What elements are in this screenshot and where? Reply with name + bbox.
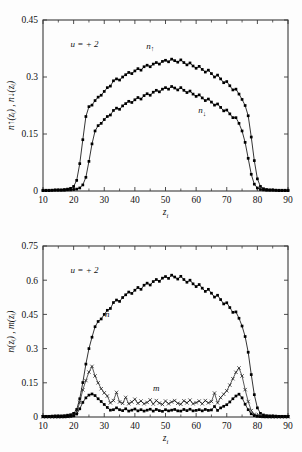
series-marker-m-lower bbox=[140, 408, 143, 411]
series-marker-n↑ bbox=[250, 136, 253, 139]
series-marker-n↓ bbox=[176, 89, 179, 92]
series-marker-m-lower bbox=[268, 415, 271, 418]
series-marker-m-lower bbox=[158, 409, 161, 412]
series-marker-n↓ bbox=[235, 116, 238, 119]
series-marker-m bbox=[121, 402, 124, 405]
series-marker-m bbox=[197, 399, 200, 402]
series-marker-m-lower bbox=[91, 393, 94, 396]
series-marker-n↑ bbox=[85, 115, 88, 118]
series-marker-n↑ bbox=[186, 63, 189, 66]
series-label-arrow: ↓ bbox=[203, 110, 207, 118]
series-marker-m-lower bbox=[124, 407, 127, 410]
series-marker-m-lower bbox=[106, 406, 109, 409]
series-marker-n bbox=[213, 296, 216, 299]
series-marker-n bbox=[118, 300, 121, 303]
series-marker-n↑ bbox=[115, 78, 118, 81]
series-marker-n↓ bbox=[265, 189, 268, 192]
series-marker-m-lower bbox=[54, 415, 57, 418]
series-marker-n bbox=[164, 275, 167, 278]
series-marker-m bbox=[127, 402, 130, 405]
series-marker-m-lower bbox=[143, 410, 146, 413]
series-marker-m bbox=[99, 387, 102, 390]
series-marker-m bbox=[231, 377, 234, 380]
series-marker-m-lower bbox=[149, 408, 152, 411]
series-marker-n bbox=[189, 279, 192, 282]
series-marker-m-lower bbox=[137, 409, 140, 412]
series-marker-n↓ bbox=[253, 183, 256, 186]
series-marker-n↑ bbox=[247, 114, 250, 117]
series-marker-n bbox=[91, 336, 94, 339]
series-marker-n↓ bbox=[207, 98, 210, 101]
series-marker-n↓ bbox=[106, 115, 109, 118]
series-marker-n↑ bbox=[210, 72, 213, 75]
series-marker-m-lower bbox=[130, 409, 133, 412]
series-marker-n↓ bbox=[247, 157, 250, 160]
series-marker-n↓ bbox=[60, 189, 63, 192]
series-marker-n↓ bbox=[127, 100, 130, 103]
series-marker-n↑ bbox=[112, 79, 115, 82]
series-marker-n↑ bbox=[161, 60, 164, 63]
x-axis-title-sub: i bbox=[166, 212, 168, 219]
series-marker-n↑ bbox=[155, 61, 158, 64]
series-marker-m-lower bbox=[112, 408, 115, 411]
series-marker-m bbox=[124, 396, 127, 399]
series-marker-n↓ bbox=[100, 122, 103, 125]
x-tick-label: 10 bbox=[38, 195, 48, 205]
series-marker-n↓ bbox=[42, 189, 45, 192]
series-marker-m-lower bbox=[42, 415, 45, 418]
series-marker-m-lower bbox=[225, 403, 228, 406]
series-marker-n↓ bbox=[201, 97, 204, 100]
y-tick-label: 0.45 bbox=[21, 310, 38, 320]
series-marker-n↓ bbox=[57, 189, 60, 192]
series-marker-m bbox=[234, 371, 237, 374]
series-marker-n↓ bbox=[121, 105, 124, 108]
series-marker-m bbox=[161, 403, 164, 406]
x-tick-label: 40 bbox=[130, 195, 140, 205]
series-marker-n↓ bbox=[164, 86, 167, 89]
series-marker-m-lower bbox=[238, 393, 241, 396]
series-marker-m-lower bbox=[127, 410, 130, 413]
series-marker-m-lower bbox=[222, 405, 225, 408]
series-marker-n↑ bbox=[158, 63, 161, 66]
series-marker-n bbox=[143, 284, 146, 287]
series-marker-n↓ bbox=[274, 189, 277, 192]
series-marker-n↓ bbox=[81, 184, 84, 187]
series-marker-m bbox=[222, 393, 225, 396]
series-marker-n bbox=[216, 294, 219, 297]
series-marker-m-lower bbox=[161, 410, 164, 413]
series-marker-m-lower bbox=[287, 415, 290, 418]
series-marker-n↑ bbox=[137, 67, 140, 70]
series-marker-m-lower bbox=[134, 408, 137, 411]
series-marker-n↓ bbox=[241, 130, 244, 133]
series-marker-n bbox=[259, 412, 262, 415]
series-marker-m-lower bbox=[109, 409, 112, 412]
series-marker-m-lower bbox=[207, 409, 210, 412]
series-marker-n bbox=[97, 320, 100, 323]
figure-container: 10203040506070809000.150.30.45zin↑(zᵢ) ,… bbox=[0, 0, 302, 452]
series-marker-n↓ bbox=[277, 189, 280, 192]
series-marker-n bbox=[235, 311, 238, 314]
series-marker-n bbox=[176, 278, 179, 281]
x-tick-label: 90 bbox=[283, 421, 293, 431]
series-marker-n bbox=[186, 281, 189, 284]
series-marker-n↑ bbox=[81, 138, 84, 141]
series-marker-m-lower bbox=[152, 410, 155, 413]
series-marker-n↑ bbox=[183, 61, 186, 64]
series-marker-n bbox=[94, 325, 97, 328]
series-marker-m-lower bbox=[183, 408, 186, 411]
series-marker-n↓ bbox=[222, 109, 225, 112]
series-marker-m bbox=[152, 402, 155, 405]
series-marker-n↓ bbox=[287, 189, 290, 192]
series-marker-m bbox=[109, 401, 112, 404]
series-marker-m bbox=[173, 399, 176, 402]
series-marker-n↓ bbox=[271, 189, 274, 192]
series-marker-m bbox=[225, 389, 228, 392]
series-marker-n↓ bbox=[259, 188, 262, 191]
series-marker-m bbox=[191, 402, 194, 405]
y-tick-label: 0.45 bbox=[21, 15, 38, 25]
series-marker-m-lower bbox=[97, 397, 100, 400]
series-marker-m bbox=[170, 400, 173, 403]
series-marker-n↓ bbox=[173, 87, 176, 90]
series-marker-n↑ bbox=[232, 89, 235, 92]
series-marker-n bbox=[225, 301, 228, 304]
